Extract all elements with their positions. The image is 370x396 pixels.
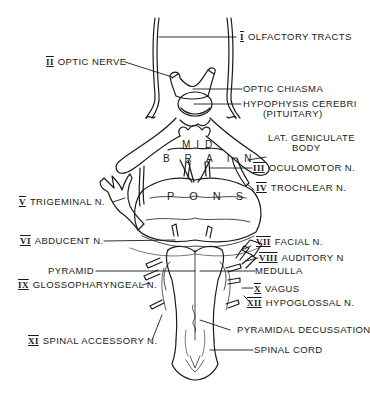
- olfactory-tracts-drawing: [146, 18, 240, 118]
- label-glossopharyngeal: IXGLOSSOPHARYNGEAL N.: [18, 280, 157, 290]
- optic-chiasma-drawing: [170, 68, 215, 99]
- label-optic-chiasma: OPTIC CHIASMA: [243, 84, 323, 94]
- label-oculomotor: IIIOCULOMOTOR N.: [253, 163, 355, 173]
- label-trochlear: IVTROCHLEAR N.: [256, 183, 346, 193]
- abducent-nerve-drawing: [172, 224, 212, 238]
- oculomotor-nerve-drawing: [184, 162, 210, 178]
- label-facial: VIIFACIAL N.: [256, 237, 323, 247]
- label-trigeminal: VTRIGEMINAL N.: [19, 197, 105, 207]
- label-medulla: MEDULLA: [255, 266, 303, 276]
- label-auditory: VIIIAUDITORY N: [259, 253, 344, 263]
- label-pyramid: PYRAMID: [48, 266, 94, 276]
- brainstem-diagram: MID B R A I N P O N S IOLFACTORY TRACTS …: [0, 0, 370, 396]
- pons-label: P O N S: [167, 190, 249, 202]
- label-optic-nerve: IIOPTIC NERVE: [46, 57, 126, 67]
- label-vagus: XVAGUS: [254, 284, 299, 294]
- label-olfactory-tracts: IOLFACTORY TRACTS: [240, 32, 352, 42]
- midbrain-label-top: MID: [182, 139, 218, 150]
- label-pyramidal-decussation: PYRAMIDAL DECUSSATION: [237, 325, 370, 335]
- spinal-cord-drawing: [172, 305, 218, 380]
- label-spinal-cord: SPINAL CORD: [254, 345, 322, 355]
- label-abducent: VIABDUCENT N.: [20, 236, 103, 246]
- label-hypoglossal: XIIHYPOGLOSSAL N.: [247, 298, 354, 308]
- midbrain-label-bottom: B R A I N: [163, 153, 258, 164]
- label-spinal-accessory: XISPINAL ACCESSORY N.: [28, 336, 157, 346]
- label-lat-geniculate: LAT. GENICULATE BODY: [268, 133, 355, 153]
- label-hypophysis: HYPOPHYSIS CEREBRI (PITUITARY): [243, 99, 357, 119]
